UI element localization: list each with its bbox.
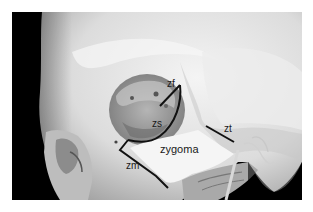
label-zygoma: zygoma bbox=[160, 144, 199, 155]
label-zt: zt bbox=[224, 124, 232, 134]
label-zm: zm bbox=[126, 161, 139, 171]
skull-rendering bbox=[12, 12, 302, 200]
label-zs: zs bbox=[152, 119, 162, 129]
label-zf: zf bbox=[167, 79, 175, 89]
skull-ct-figure: zf zs zt zm zygoma bbox=[12, 12, 302, 200]
